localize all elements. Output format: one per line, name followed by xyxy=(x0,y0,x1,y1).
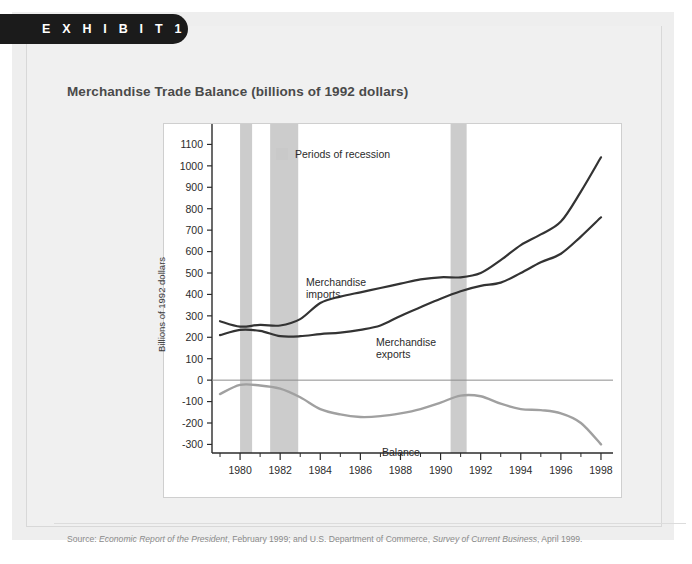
source-note: Source: Economic Report of the President… xyxy=(67,534,582,544)
exports-series-label: exports xyxy=(376,348,410,360)
legend-recession-label: Periods of recession xyxy=(295,148,390,160)
x-tick-label: 1986 xyxy=(349,464,373,476)
trade-balance-line-chart: 110010009008007006005004003002001000-100… xyxy=(164,124,621,497)
source-title-2: Survey of Current Business xyxy=(432,534,537,544)
y-tick-label: 300 xyxy=(185,310,203,322)
y-tick-label: 500 xyxy=(185,267,203,279)
page-root: Merchandise Trade Balance (billions of 1… xyxy=(0,0,692,564)
y-tick-label: -200 xyxy=(182,417,203,429)
recession-band xyxy=(451,124,467,453)
exports-series-label: Merchandise xyxy=(376,336,436,348)
footer-divider xyxy=(54,523,686,524)
x-tick-label: 1992 xyxy=(469,464,493,476)
x-tick-label: 1994 xyxy=(509,464,533,476)
y-tick-label: 700 xyxy=(185,224,203,236)
y-tick-label: 600 xyxy=(185,245,203,257)
recession-band xyxy=(270,124,298,453)
y-tick-label: 900 xyxy=(185,181,203,193)
chart-plot-area: Billions of 1992 dollars 110010009008007… xyxy=(163,123,622,498)
exhibit-tab: E X H I B I T 1 xyxy=(0,14,188,44)
y-tick-label: 1000 xyxy=(180,160,204,172)
x-tick-label: 1990 xyxy=(429,464,453,476)
y-tick-label: 400 xyxy=(185,288,203,300)
source-prefix: Source: xyxy=(67,534,97,544)
recession-band xyxy=(240,124,252,453)
imports-series-label: imports xyxy=(306,288,340,300)
source-title-1: Economic Report of the President xyxy=(99,534,228,544)
source-suffix: , April 1999. xyxy=(537,534,582,544)
y-tick-label: 800 xyxy=(185,203,203,215)
x-tick-label: 1988 xyxy=(389,464,413,476)
x-tick-label: 1980 xyxy=(228,464,252,476)
x-tick-label: 1984 xyxy=(309,464,333,476)
y-tick-label: 1100 xyxy=(180,138,203,150)
y-tick-label: -300 xyxy=(182,438,203,450)
y-tick-label: -100 xyxy=(182,395,203,407)
source-mid: , February 1999; and U.S. Department of … xyxy=(228,534,431,544)
exhibit-tab-label: E X H I B I T 1 xyxy=(0,22,186,36)
balance-series-label: Balance xyxy=(382,446,420,458)
y-tick-label: 200 xyxy=(185,331,203,343)
y-tick-label: 100 xyxy=(185,353,203,365)
page-title: Merchandise Trade Balance (billions of 1… xyxy=(67,84,408,99)
x-tick-label: 1996 xyxy=(549,464,573,476)
legend-recession-swatch xyxy=(276,148,288,160)
exhibit-card: Merchandise Trade Balance (billions of 1… xyxy=(26,26,662,527)
x-tick-label: 1982 xyxy=(268,464,292,476)
x-tick-label: 1998 xyxy=(589,464,613,476)
imports-series-label: Merchandise xyxy=(306,276,366,288)
y-tick-label: 0 xyxy=(197,374,203,386)
